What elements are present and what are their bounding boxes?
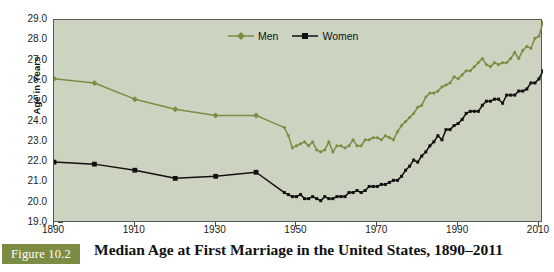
caption-bar: Figure 10.2 Median Age at First Marriage… — [0, 236, 554, 272]
chart-legend: MenWomen — [228, 30, 358, 42]
x-tick-label: 2010 — [518, 224, 554, 235]
legend-entry-women: Women — [292, 30, 358, 42]
figure-number-badge: Figure 10.2 — [2, 244, 80, 264]
legend-square-marker-icon — [292, 31, 318, 41]
x-tick-mark — [295, 222, 296, 227]
figure-container: 19.020.021.022.023.024.025.026.027.028.0… — [0, 0, 554, 272]
legend-label: Women — [322, 30, 358, 42]
x-tick-mark — [215, 222, 216, 227]
chart-area: 19.020.021.022.023.024.025.026.027.028.0… — [0, 0, 554, 232]
legend-diamond-marker-icon — [228, 31, 254, 41]
x-tick-mark — [457, 222, 458, 227]
x-tick-mark — [376, 222, 377, 227]
x-tick-mark — [53, 222, 54, 227]
x-tick-mark — [134, 222, 135, 227]
legend-label: Men — [258, 30, 278, 42]
x-tick-mark — [538, 222, 539, 227]
figure-caption: Median Age at First Marriage in the Unit… — [94, 241, 503, 259]
legend-entry-men: Men — [228, 30, 278, 42]
